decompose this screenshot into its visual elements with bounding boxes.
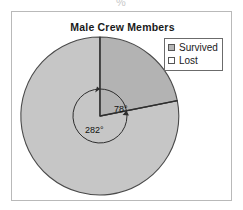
- chart-legend: Survived Lost: [164, 38, 223, 71]
- figure-frame: Male Crew Members 78° 282° Survived Lost: [11, 11, 232, 201]
- legend-label-survived: Survived: [179, 42, 218, 53]
- legend-swatch-survived-icon: [168, 44, 175, 51]
- legend-label-lost: Lost: [179, 55, 198, 66]
- angle-label-lost: 282°: [85, 125, 104, 135]
- angle-label-survived: 78°: [114, 104, 128, 114]
- cropped-top-text-fragment: %: [0, 0, 243, 8]
- legend-item-survived[interactable]: Survived: [168, 41, 218, 54]
- legend-item-lost[interactable]: Lost: [168, 54, 218, 67]
- legend-swatch-lost-icon: [168, 57, 175, 64]
